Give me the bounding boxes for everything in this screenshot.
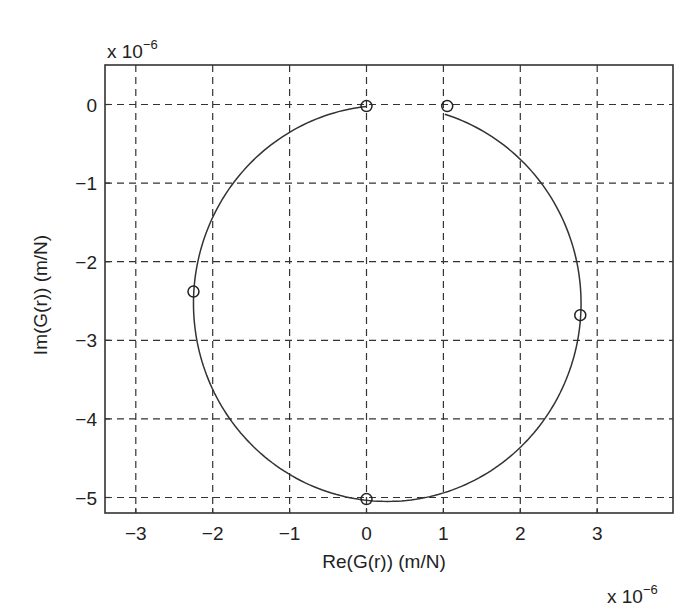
data-markers <box>188 101 586 505</box>
nyquist-curve <box>193 106 581 501</box>
x-tick-label: 0 <box>361 523 372 544</box>
plot-frame <box>105 65 673 513</box>
y-axis-multiplier: x 10−6 <box>107 37 158 62</box>
grid-lines <box>105 65 673 513</box>
nyquist-chart: −3−2−10123 0−1−2−3−4−5 Re(G(r)) (m/N) Im… <box>0 0 700 613</box>
x-axis-multiplier: x 10−6 <box>607 582 658 607</box>
y-tick-label: −5 <box>75 488 97 509</box>
y-tick-label: −1 <box>75 173 97 194</box>
x-tick-label: 1 <box>438 523 449 544</box>
y-tick-label: 0 <box>86 95 97 116</box>
x-multiplier-base: x 10 <box>607 586 643 607</box>
y-tick-label: −4 <box>75 409 97 430</box>
x-multiplier-exponent: −6 <box>643 582 658 597</box>
y-tick-label: −2 <box>75 252 97 273</box>
x-tick-label: 2 <box>515 523 526 544</box>
nyquist-curve-path <box>193 106 581 501</box>
x-tick-label: 3 <box>592 523 603 544</box>
y-multiplier-exponent: −6 <box>143 37 158 52</box>
y-axis-label: Im(G(r)) (m/N) <box>30 235 51 355</box>
y-multiplier-base: x 10 <box>107 41 143 62</box>
x-tick-label: −2 <box>202 523 224 544</box>
y-tick-label: −3 <box>75 330 97 351</box>
x-tick-label: −3 <box>125 523 147 544</box>
x-axis-label: Re(G(r)) (m/N) <box>322 551 445 572</box>
x-tick-label: −1 <box>279 523 301 544</box>
